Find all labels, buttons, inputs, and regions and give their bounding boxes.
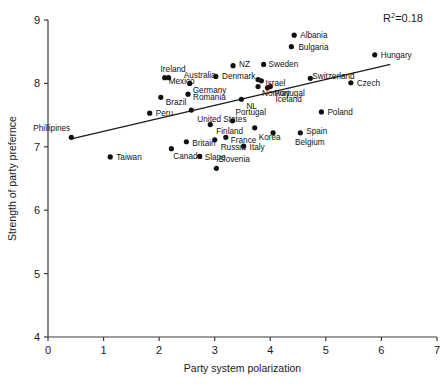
data-point[interactable]: [214, 166, 219, 171]
y-tick-label: 6: [34, 204, 40, 216]
data-point[interactable]: [298, 130, 303, 135]
data-point-label: Slovenia: [218, 155, 250, 164]
data-point-label: Poland: [327, 108, 353, 117]
data-point[interactable]: [255, 84, 260, 89]
data-point[interactable]: [185, 92, 190, 97]
data-point[interactable]: [239, 97, 244, 102]
data-point[interactable]: [372, 52, 377, 57]
y-tick-label: 4: [34, 331, 40, 343]
data-point[interactable]: [261, 62, 266, 67]
data-point-label: Brazil: [166, 98, 187, 107]
y-tick-label: 8: [34, 77, 40, 89]
data-point[interactable]: [108, 154, 113, 159]
data-point[interactable]: [270, 130, 275, 135]
data-point[interactable]: [241, 144, 246, 149]
data-point[interactable]: [252, 125, 257, 130]
data-point[interactable]: [187, 81, 192, 86]
data-point-label: Taiwan: [116, 153, 142, 162]
y-tick-label: 9: [34, 14, 40, 26]
x-tick-label: 2: [156, 344, 162, 356]
data-point-label: Portugal: [235, 108, 266, 117]
data-point[interactable]: [208, 122, 213, 127]
x-axis-title: Party system polarization: [184, 362, 301, 374]
data-point-label: Peru: [156, 109, 174, 118]
data-point-label: Hungary: [381, 51, 413, 60]
data-point[interactable]: [197, 154, 202, 159]
data-point[interactable]: [169, 146, 174, 151]
x-tick-label: 4: [267, 344, 273, 356]
data-point-label: Belgium: [295, 138, 325, 147]
data-point-label: Czech: [357, 79, 381, 88]
y-axis-title: Strength of party prefernce: [6, 116, 18, 241]
data-point-label: Albania: [300, 31, 328, 40]
data-point-label: Bulgaria: [298, 43, 328, 52]
data-point-label: Ireland: [161, 65, 186, 74]
data-point[interactable]: [184, 139, 189, 144]
data-point[interactable]: [265, 85, 270, 90]
x-tick-label: 7: [434, 344, 440, 356]
data-point[interactable]: [289, 44, 294, 49]
data-point-label: Switzerland: [312, 72, 355, 81]
data-point[interactable]: [212, 137, 217, 142]
data-point-label: Denmark: [222, 72, 256, 81]
chart-plot-area: 45678901234567PhillipinesTaiwanPeruBrazi…: [0, 0, 447, 390]
x-tick-label: 6: [378, 344, 384, 356]
data-point[interactable]: [259, 78, 264, 83]
data-point[interactable]: [69, 135, 74, 140]
r-squared-annotation: R2=0.18: [383, 11, 423, 24]
data-point-label: Sweden: [269, 60, 299, 69]
data-point[interactable]: [230, 118, 235, 123]
y-tick-label: 7: [34, 141, 40, 153]
data-point[interactable]: [348, 80, 353, 85]
data-point-label: Korea: [259, 133, 281, 142]
data-point[interactable]: [166, 75, 171, 80]
data-point[interactable]: [158, 95, 163, 100]
x-tick-label: 5: [323, 344, 329, 356]
y-tick-label: 5: [34, 268, 40, 280]
data-point[interactable]: [292, 33, 297, 38]
x-tick-label: 3: [212, 344, 218, 356]
data-point[interactable]: [230, 63, 235, 68]
x-tick-label: 0: [45, 344, 51, 356]
data-point-label: Finland: [216, 127, 243, 136]
data-point[interactable]: [147, 111, 152, 116]
data-point-label: Australia: [184, 71, 216, 80]
data-point[interactable]: [223, 135, 228, 140]
data-point[interactable]: [319, 109, 324, 114]
data-point-label: Iceland: [276, 95, 303, 104]
data-point-label: NZ: [239, 60, 250, 69]
data-point-label: Phillipines: [33, 124, 70, 133]
data-point[interactable]: [189, 107, 194, 112]
data-point-label: Italy: [250, 143, 266, 152]
scatter-chart-container: 45678901234567PhillipinesTaiwanPeruBrazi…: [0, 0, 447, 390]
x-tick-label: 1: [101, 344, 107, 356]
data-point-label: Spain: [306, 127, 327, 136]
data-point-label: Germany: [193, 86, 228, 95]
